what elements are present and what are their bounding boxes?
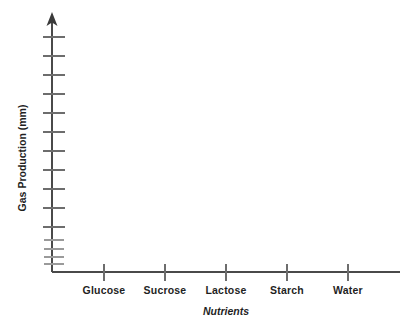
- x-axis-title: Nutrients: [203, 305, 249, 317]
- x-tick-label-lactose: Lactose: [205, 284, 246, 296]
- x-tick-label-glucose: Glucose: [83, 284, 126, 296]
- y-axis-ticks: [43, 37, 65, 264]
- y-axis-title: Gas Production (mm): [16, 105, 28, 212]
- x-tick-label-water: Water: [333, 284, 363, 296]
- x-tick-label-starch: Starch: [270, 284, 304, 296]
- x-tick-label-sucrose: Sucrose: [144, 284, 187, 296]
- graph-template: Glucose Sucrose Lactose Starch Water Nut…: [0, 0, 414, 334]
